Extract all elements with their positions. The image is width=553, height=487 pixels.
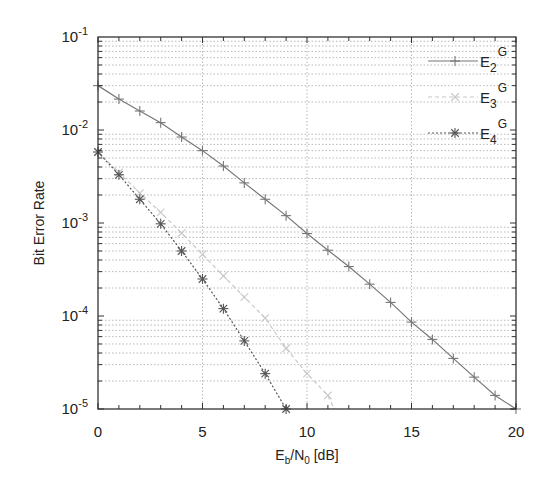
x-tick-label: 0	[94, 423, 102, 440]
legend-label: E4G	[480, 117, 507, 147]
x-tick-label: 15	[403, 423, 420, 440]
series-3	[94, 148, 334, 409]
y-axis-title: Bit Error Rate	[31, 180, 47, 265]
x-tick-label: 10	[299, 423, 316, 440]
series-4	[93, 147, 291, 414]
y-tick-label: 10-3	[62, 211, 88, 231]
x-axis-title: Eb/N0 [dB]	[275, 447, 338, 466]
y-tick-labels: 10-110-210-310-410-5	[62, 25, 88, 417]
y-tick-label: 10-4	[62, 304, 88, 324]
legend-entry: E4G	[428, 117, 507, 147]
legend: E2GE3GE4G	[428, 45, 507, 147]
legend-entry: E3G	[428, 81, 507, 111]
x-tick-labels: 05101520	[94, 423, 525, 440]
x-tick-label: 5	[198, 423, 206, 440]
series-line	[98, 152, 334, 409]
x-tick-label: 20	[508, 423, 525, 440]
y-tick-label: 10-1	[62, 25, 88, 45]
y-tick-label: 10-2	[62, 118, 88, 138]
ber-chart: 05101520 10-110-210-310-410-5 Eb/N0 [dB]…	[0, 0, 553, 487]
y-tick-label: 10-5	[62, 397, 88, 417]
legend-entry: E2G	[428, 45, 507, 75]
series-line	[98, 152, 286, 409]
legend-label: E2G	[480, 45, 507, 75]
